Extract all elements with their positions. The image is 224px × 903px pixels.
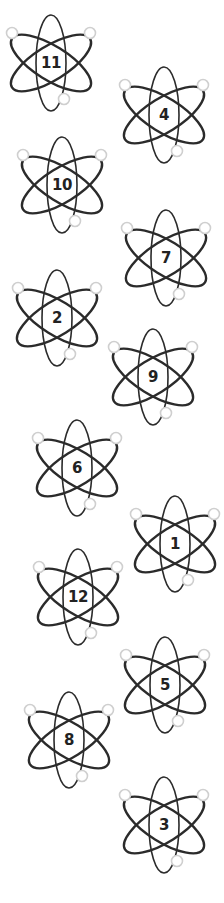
- atom-number: 10: [14, 127, 110, 243]
- atom-number: 2: [9, 260, 105, 376]
- atom-number: 11: [3, 5, 99, 121]
- atom-icon-4: 4: [116, 57, 212, 173]
- atom-number: 1: [127, 486, 223, 602]
- atom-icon-3: 3: [116, 767, 212, 883]
- atom-icon-1: 1: [127, 486, 223, 602]
- atom-number: 7: [118, 200, 214, 316]
- atom-number: 5: [117, 627, 213, 743]
- atom-icon-12: 12: [30, 539, 126, 655]
- atom-number: 3: [116, 767, 212, 883]
- atom-number: 6: [29, 410, 125, 526]
- atom-icon-2: 2: [9, 260, 105, 376]
- atom-icon-7: 7: [118, 200, 214, 316]
- atom-number: 12: [30, 539, 126, 655]
- atom-icon-10: 10: [14, 127, 110, 243]
- atom-icon-11: 11: [3, 5, 99, 121]
- atom-number: 4: [116, 57, 212, 173]
- atom-icon-5: 5: [117, 627, 213, 743]
- atom-icon-8: 8: [21, 682, 117, 798]
- atom-icon-6: 6: [29, 410, 125, 526]
- atom-number: 8: [21, 682, 117, 798]
